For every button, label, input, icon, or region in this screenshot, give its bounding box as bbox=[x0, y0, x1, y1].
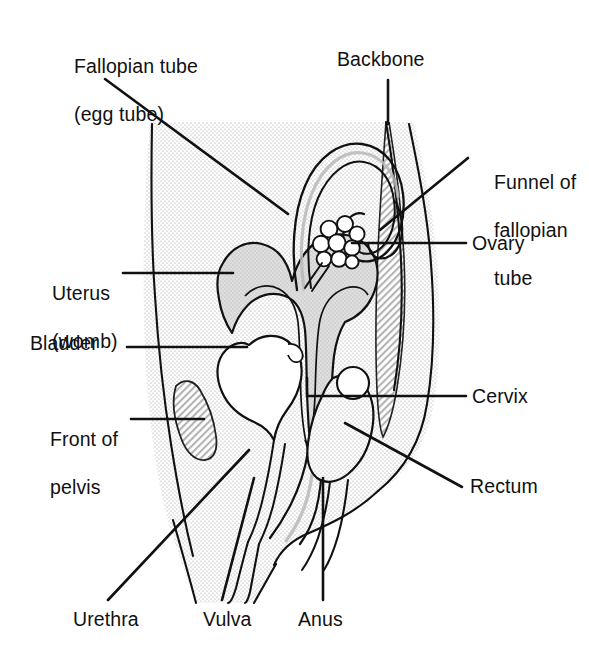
label-front-of-pelvis-line2: pelvis bbox=[50, 476, 100, 498]
label-front-of-pelvis-line1: Front of bbox=[50, 428, 118, 450]
label-fallopian-tube-line2: (egg tube) bbox=[74, 103, 164, 125]
label-rectum: Rectum bbox=[470, 474, 538, 498]
label-cervix: Cervix bbox=[472, 384, 528, 408]
label-vulva: Vulva bbox=[203, 607, 252, 631]
label-front-of-pelvis: Front of pelvis bbox=[28, 403, 118, 523]
label-urethra: Urethra bbox=[73, 607, 139, 631]
label-funnel-line3: tube bbox=[494, 267, 532, 289]
label-ovary: Ovary bbox=[472, 231, 525, 255]
label-funnel-of-fallopian-tube: Funnel of fallopian tube bbox=[472, 146, 576, 314]
label-fallopian-tube-line1: Fallopian tube bbox=[74, 55, 198, 77]
label-fallopian-tube: Fallopian tube (egg tube) bbox=[52, 30, 198, 150]
label-uterus: Uterus (womb) bbox=[30, 257, 118, 377]
label-backbone: Backbone bbox=[337, 47, 425, 71]
anatomy-figure: Fallopian tube (egg tube) Backbone Funne… bbox=[0, 0, 589, 669]
label-anus: Anus bbox=[298, 607, 343, 631]
label-uterus-line1: Uterus bbox=[52, 282, 110, 304]
label-bladder: Bladder bbox=[30, 331, 98, 355]
label-funnel-line1: Funnel of bbox=[494, 171, 576, 193]
